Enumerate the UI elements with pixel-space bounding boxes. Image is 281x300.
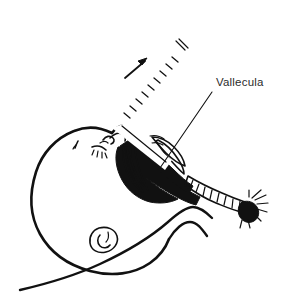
- vallecula-illustration: Vallecula: [0, 0, 281, 300]
- vallecula-label: Vallecula: [216, 76, 264, 88]
- illustration-canvas: Vallecula: [0, 0, 281, 300]
